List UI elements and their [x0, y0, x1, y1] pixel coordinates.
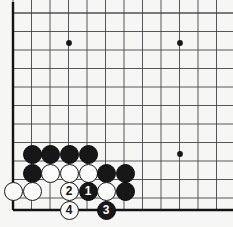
move-number-label: 3: [103, 204, 109, 216]
white-stone: [23, 182, 42, 201]
move-stone-2: 2: [60, 182, 79, 201]
white-stone: [60, 164, 79, 183]
go-board-diagram: 2143: [0, 0, 233, 227]
move-number-label: 1: [85, 185, 91, 197]
white-stone: [4, 182, 23, 201]
move-stone-3: 3: [97, 201, 116, 220]
white-stone: [97, 182, 116, 201]
black-stone: [23, 145, 42, 164]
black-stone: [41, 145, 60, 164]
black-stone: [116, 182, 135, 201]
move-number-label: 4: [66, 204, 72, 216]
white-stone: [41, 164, 60, 183]
black-stone: [60, 145, 79, 164]
black-stone: [79, 145, 98, 164]
move-number-label: 2: [66, 185, 72, 197]
black-stone: [97, 164, 116, 183]
star-point-1: [177, 40, 183, 46]
black-stone: [116, 164, 135, 183]
move-stone-4: 4: [60, 201, 79, 220]
star-point-2: [177, 151, 183, 157]
black-stone: [23, 164, 42, 183]
white-stone: [79, 164, 98, 183]
move-stone-1: 1: [79, 182, 98, 201]
star-point-0: [66, 40, 72, 46]
